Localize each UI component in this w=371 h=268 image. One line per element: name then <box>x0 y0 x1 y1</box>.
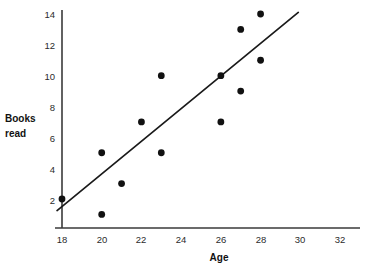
y-tick-label: 14 <box>44 9 55 20</box>
trend-line <box>57 12 298 210</box>
x-tick-label: 22 <box>136 234 147 245</box>
x-tick-label: 18 <box>57 234 68 245</box>
data-point <box>237 88 244 95</box>
y-tick-label: 8 <box>50 102 55 113</box>
y-tick-label: 10 <box>44 71 55 82</box>
data-point <box>158 72 165 79</box>
data-point <box>217 72 224 79</box>
y-tick-label: 12 <box>44 40 55 51</box>
x-tick-label: 28 <box>256 234 267 245</box>
chart-canvas: 14 12 10 8 6 4 2 18 20 22 24 26 28 30 32… <box>0 0 371 268</box>
y-tick-label: 6 <box>50 133 55 144</box>
y-axis-title-line2: read <box>5 128 26 139</box>
data-point <box>98 149 105 156</box>
data-point <box>59 196 66 203</box>
y-tick-label: 4 <box>50 164 55 175</box>
data-point <box>158 149 165 156</box>
data-point <box>257 57 264 64</box>
x-tick-label: 32 <box>335 234 346 245</box>
x-tick-label: 20 <box>97 234 108 245</box>
x-axis-tick-labels: 18 20 22 24 26 28 30 32 <box>57 234 346 245</box>
y-tick-label: 2 <box>50 195 55 206</box>
data-point <box>118 180 125 187</box>
x-tick-label: 30 <box>295 234 306 245</box>
y-axis-tick-labels: 14 12 10 8 6 4 2 <box>44 9 55 206</box>
y-axis-title-line1: Books <box>5 113 36 124</box>
data-point <box>98 211 105 218</box>
data-point <box>138 119 145 126</box>
data-point <box>217 119 224 126</box>
scatter-chart: 14 12 10 8 6 4 2 18 20 22 24 26 28 30 32… <box>0 0 371 268</box>
x-tick-label: 26 <box>216 234 227 245</box>
x-axis-title: Age <box>210 252 229 263</box>
data-point <box>237 26 244 33</box>
data-point-group <box>59 11 264 218</box>
x-tick-label: 24 <box>176 234 187 245</box>
data-point <box>257 11 264 18</box>
